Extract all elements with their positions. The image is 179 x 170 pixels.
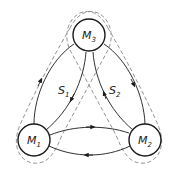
- edge-m1-m3: [34, 44, 74, 124]
- set-s1-label: S1: [58, 84, 69, 99]
- edge-m2-m1: [49, 146, 130, 155]
- node-m1: M1: [18, 124, 50, 156]
- state-transition-diagram: M3 M1 M2 S1 S2: [0, 0, 179, 170]
- set-s2-label: S2: [109, 84, 121, 99]
- node-m3: M3: [73, 19, 105, 51]
- node-m2: M2: [129, 124, 161, 156]
- edges: [34, 44, 145, 155]
- edge-m1-m2: [50, 127, 129, 135]
